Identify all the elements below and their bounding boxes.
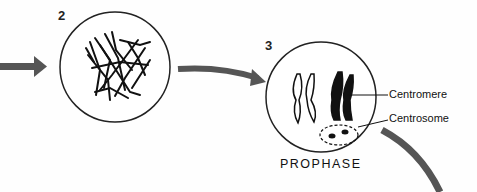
arrow-out-stage-3 bbox=[382, 130, 440, 192]
stage-number-2: 2 bbox=[58, 8, 65, 23]
mitosis-diagram: 2 3 Centromere Centrosome PROPHASE bbox=[0, 0, 477, 192]
phase-label: PROPHASE bbox=[280, 157, 361, 171]
cell-stage-3 bbox=[266, 42, 376, 152]
arrow-stage-2-to-3 bbox=[178, 68, 258, 78]
label-centrosome: Centrosome bbox=[389, 112, 449, 124]
stage-number-3: 3 bbox=[265, 38, 272, 53]
arrow-into-stage-2 bbox=[0, 56, 47, 77]
label-centromere: Centromere bbox=[389, 88, 447, 100]
